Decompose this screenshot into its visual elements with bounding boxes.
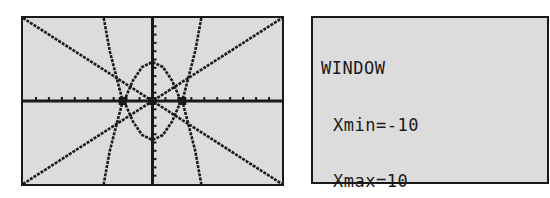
intersection-point — [149, 97, 157, 105]
window-setting-xmax[interactable]: Xmax=10 — [321, 172, 419, 191]
intersection-point — [178, 97, 186, 105]
window-title: WINDOW — [321, 59, 419, 78]
intersection-point — [119, 97, 127, 105]
graph-plot — [21, 16, 284, 186]
graph-screen — [21, 16, 284, 186]
window-setting-xmin[interactable]: Xmin=-10 — [321, 116, 419, 135]
window-settings-screen: WINDOW Xmin=-10 Xmax=10 Xscl=1 Ymin=-10 … — [311, 16, 549, 184]
window-settings-list: WINDOW Xmin=-10 Xmax=10 Xscl=1 Ymin=-10 … — [321, 21, 419, 198]
